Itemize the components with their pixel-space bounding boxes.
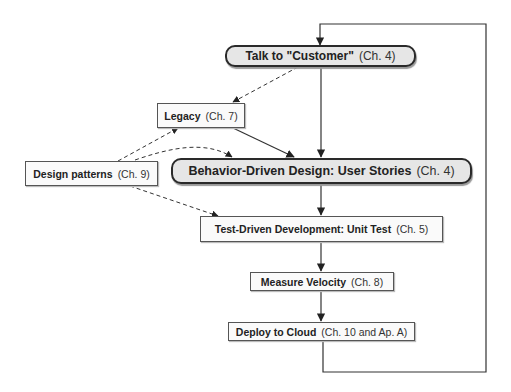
node-title: Deploy to Cloud [236, 326, 317, 338]
node-title: Talk to "Customer" [245, 49, 354, 63]
arrow-legacy-to-bdd [233, 128, 294, 157]
dashed-patterns-to-tdd [130, 186, 218, 216]
node-deploy-to-cloud: Deploy to Cloud (Ch. 10 and Ap. A) [228, 322, 415, 341]
node-title: Behavior-Driven Design: User Stories [188, 164, 411, 178]
node-chapter-ref: (Ch. 7) [206, 110, 238, 122]
node-chapter-ref: (Ch. 8) [351, 276, 383, 288]
node-talk-to-customer: Talk to "Customer" (Ch. 4) [225, 45, 416, 67]
node-legacy: Legacy (Ch. 7) [157, 103, 245, 128]
feedback-loop-line [320, 24, 486, 372]
node-chapter-ref: (Ch. 5) [396, 223, 428, 235]
node-chapter-ref: (Ch. 4) [416, 164, 454, 178]
node-design-patterns: Design patterns (Ch. 9) [25, 161, 158, 186]
node-chapter-ref: (Ch. 4) [359, 49, 396, 63]
node-chapter-ref: (Ch. 9) [118, 168, 150, 180]
node-measure-velocity: Measure Velocity (Ch. 8) [250, 272, 394, 291]
dashed-patterns-to-legacy [118, 128, 178, 161]
dashed-talk-to-legacy [233, 67, 298, 102]
node-test-driven-development: Test-Driven Development: Unit Test (Ch. … [200, 216, 443, 242]
node-title: Legacy [164, 110, 200, 122]
node-title: Design patterns [33, 168, 112, 180]
node-title: Measure Velocity [261, 276, 346, 288]
node-title: Test-Driven Development: Unit Test [215, 223, 391, 235]
node-behavior-driven-design: Behavior-Driven Design: User Stories (Ch… [171, 158, 472, 184]
node-chapter-ref: (Ch. 10 and Ap. A) [321, 326, 407, 338]
